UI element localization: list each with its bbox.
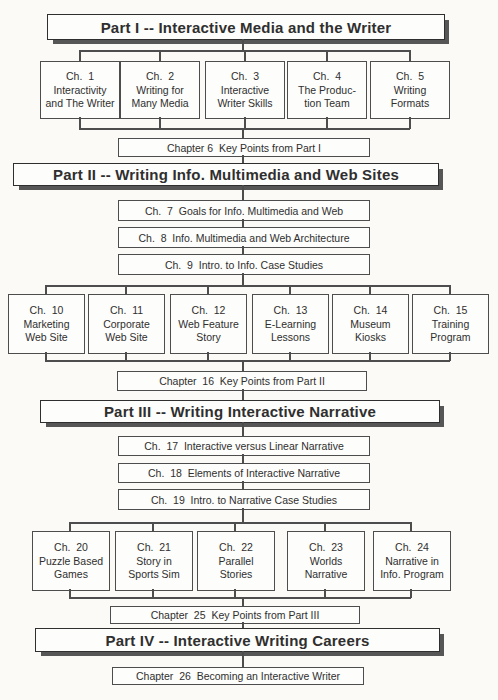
chapter-title-line: Web Site: [105, 331, 147, 344]
chapter-16-box: Chapter 16 Key Points from Part II: [117, 371, 367, 391]
connector-line: [242, 422, 244, 436]
connector-line: [45, 285, 47, 294]
connector-line: [69, 522, 411, 524]
chapter-number: Ch. 20: [54, 541, 88, 554]
connector-line: [242, 39, 244, 50]
connector-line: [326, 50, 328, 61]
chapter-6-box: Chapter 6 Key Points from Part I: [118, 138, 370, 157]
connector-line: [242, 128, 244, 138]
chapter-number: Ch. 5: [396, 70, 424, 83]
chapter-title-line: Writing for: [136, 84, 184, 97]
connector-line: [242, 481, 244, 489]
chapter-18-box: Ch. 18 Elements of Interactive Narrative: [118, 463, 370, 483]
chapter-18-label: Ch. 18 Elements of Interactive Narrative: [148, 467, 340, 479]
chapter-19-label: Ch. 19 Intro. to Narrative Case Studies: [151, 494, 337, 506]
connector-line: [242, 508, 244, 522]
chapter-11-box: Ch. 11 Corporate Web Site: [88, 294, 165, 354]
chapter-title-line: Worlds: [310, 555, 342, 568]
chapter-2-box: Ch. 2 Writing for Many Media: [120, 61, 200, 119]
chapter-number: Ch. 10: [30, 304, 64, 317]
part-4-banner-label: Part IV -- Interactive Writing Careers: [105, 632, 369, 649]
connector-line: [242, 273, 244, 285]
page-title: The Book at a Glance: [0, 0, 498, 3]
chapter-9-box: Ch. 9 Intro. to Info. Case Studies: [118, 254, 370, 275]
chapter-12-box: Ch. 12 Web Feature Story: [170, 294, 247, 354]
chapter-number: Ch. 23: [309, 541, 343, 554]
connector-line: [242, 246, 244, 254]
chapter-title-line: Corporate: [103, 318, 150, 331]
chapter-title-line: Sports Sim: [128, 568, 179, 581]
chapter-title-line: Story: [196, 331, 221, 344]
chapter-15-box: Ch. 15 Training Program: [412, 294, 489, 354]
part-1-banner-label: Part I -- Interactive Media and the Writ…: [101, 19, 392, 36]
connector-line: [369, 285, 371, 294]
chapter-title-line: The Produc-: [298, 84, 356, 97]
chapter-8-box: Ch. 8 Info. Multimedia and Web Architect…: [118, 227, 370, 248]
chapter-number: Ch. 22: [219, 541, 253, 554]
chapter-number: Ch. 4: [313, 70, 341, 83]
connector-line: [207, 285, 209, 294]
chapter-number: Ch. 1: [66, 70, 94, 83]
connector-line: [242, 651, 244, 667]
part-2-banner: Part II -- Writing Info. Multimedia and …: [13, 163, 439, 186]
chapter-14-box: Ch. 14 Museum Kiosks: [332, 294, 409, 354]
chapter-24-box: Ch. 24 Narrative in Info. Program: [373, 531, 451, 591]
connector-line: [242, 185, 244, 200]
chapter-19-box: Ch. 19 Intro. to Narrative Case Studies: [118, 489, 370, 510]
connector-line: [79, 128, 410, 130]
chapter-title-line: tion Team: [304, 97, 349, 110]
chapter-26-box: Chapter 26 Becoming an Interactive Write…: [112, 667, 364, 685]
connector-line: [242, 597, 244, 606]
connector-line: [242, 219, 244, 227]
chapter-17-label: Ch. 17 Interactive versus Linear Narrati…: [144, 440, 344, 452]
chapter-16-label: Chapter 16 Key Points from Part II: [159, 375, 325, 387]
chapter-number: Ch. 11: [110, 304, 143, 317]
connector-line: [69, 522, 71, 531]
chapter-21-box: Ch. 21 Story in Sports Sim: [115, 531, 193, 591]
chapter-title-line: Parallel: [218, 555, 253, 568]
connector-line: [234, 522, 236, 531]
connector-line: [242, 360, 244, 371]
chapter-number: Ch. 14: [354, 304, 388, 317]
chapter-25-box: Chapter 25 Key Points from Part III: [110, 606, 360, 624]
part-3-banner: Part III -- Writing Interactive Narrativ…: [40, 400, 440, 423]
connector-line: [324, 522, 326, 531]
chapter-26-label: Chapter 26 Becoming an Interactive Write…: [136, 670, 340, 682]
connector-line: [69, 597, 411, 599]
chapter-title-line: Writer Skills: [217, 97, 272, 110]
chapter-9-label: Ch. 9 Intro. to Info. Case Studies: [165, 259, 323, 271]
chapter-title-line: Training: [432, 318, 470, 331]
chapter-23-box: Ch. 23 Worlds Narrative: [287, 531, 365, 591]
chapter-title-line: Interactive: [221, 84, 269, 97]
chapter-title-line: Lessons: [271, 331, 310, 344]
connector-line: [45, 360, 450, 362]
chapter-title-line: Program: [430, 331, 470, 344]
chapter-20-box: Ch. 20 Puzzle Based Games: [32, 531, 110, 591]
chapter-title-line: Narrative in: [385, 555, 439, 568]
chapter-title-line: and The Writer: [45, 97, 114, 110]
chapter-title-line: Museum: [350, 318, 390, 331]
chapter-4-box: Ch. 4 The Produc- tion Team: [287, 61, 367, 119]
chapter-5-box: Ch. 5 Writing Formats: [370, 61, 450, 119]
chapter-3-box: Ch. 3 Interactive Writer Skills: [205, 61, 285, 119]
chapter-title-line: Writing: [394, 84, 426, 97]
connector-line: [152, 522, 154, 531]
connector-line: [242, 454, 244, 463]
chapter-title-line: Stories: [220, 568, 253, 581]
connector-line: [242, 155, 244, 163]
chapter-number: Ch. 12: [192, 304, 226, 317]
book-structure-diagram: The Book at a Glance Part I -- Interacti…: [0, 0, 498, 700]
chapter-title-line: Kiosks: [355, 331, 386, 344]
chapter-number: Ch. 2: [146, 70, 174, 83]
chapter-number: Ch. 13: [274, 304, 308, 317]
chapter-7-label: Ch. 7 Goals for Info. Multimedia and Web: [145, 205, 343, 217]
chapter-25-label: Chapter 25 Key Points from Part III: [151, 609, 320, 621]
part-4-banner: Part IV -- Interactive Writing Careers: [35, 628, 440, 652]
chapter-title-line: Web Feature: [178, 318, 239, 331]
chapter-title-line: Story in: [136, 555, 172, 568]
chapter-title-line: Web Site: [25, 331, 67, 344]
chapter-number: Ch. 21: [137, 541, 171, 554]
connector-line: [409, 50, 411, 61]
chapter-title-line: Marketing: [23, 318, 69, 331]
connector-line: [79, 50, 81, 61]
